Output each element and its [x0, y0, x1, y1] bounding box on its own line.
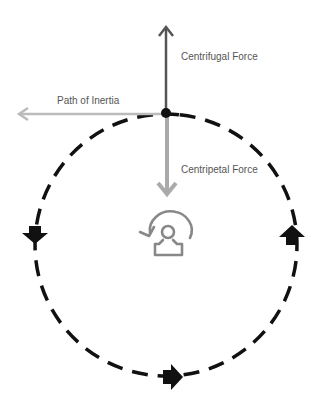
direction-arrow-right-icon: [279, 225, 305, 245]
centripetal-force-label: Centripetal Force: [181, 164, 258, 175]
direction-arrow-bottom-icon: [163, 364, 183, 390]
rotating-person-icon: [140, 211, 192, 255]
path-of-inertia-label: Path of Inertia: [57, 95, 119, 106]
centrifugal-force-label: Centrifugal Force: [181, 51, 258, 62]
direction-arrow-left-icon: [22, 226, 48, 244]
centrifugal-arrow-icon: [159, 27, 173, 113]
moving-object: [161, 108, 171, 118]
circular-motion-diagram: [0, 0, 333, 413]
inertia-arrow-icon: [19, 108, 166, 120]
centripetal-arrow-icon: [158, 113, 176, 194]
